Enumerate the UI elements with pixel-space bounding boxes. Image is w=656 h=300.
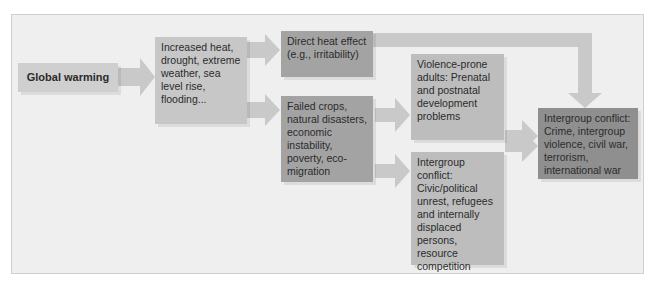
node-direct-heat: Direct heat effect (e.g., irritability)	[281, 31, 373, 77]
arrow-right-icon	[245, 94, 280, 126]
node-intergroup-final: Intergroup conflict: Crime, intergroup v…	[538, 108, 638, 179]
node-label: Violence-prone adults: Prenatal and post…	[417, 58, 490, 122]
node-label: Intergroup conflict: Civic/political unr…	[417, 156, 493, 272]
node-failed-crops: Failed crops, natural disasters, economi…	[281, 96, 373, 182]
arrow-right-icon	[375, 154, 410, 188]
node-label: Global warming	[27, 71, 110, 84]
arrow-right-icon	[375, 98, 410, 132]
node-label: Intergroup conflict: Crime, intergroup v…	[544, 112, 630, 176]
arrow-right-icon	[245, 34, 280, 66]
node-climate-effects: Increased heat, drought, extreme weather…	[155, 37, 247, 124]
node-label: Direct heat effect (e.g., irritability)	[287, 35, 366, 60]
node-label: Increased heat, drought, extreme weather…	[161, 41, 240, 105]
node-violence-prone: Violence-prone adults: Prenatal and post…	[411, 54, 504, 140]
node-intergroup-civic: Intergroup conflict: Civic/political unr…	[411, 152, 504, 265]
node-label: Failed crops, natural disasters, economi…	[287, 100, 367, 177]
node-global-warming: Global warming	[18, 63, 118, 92]
arrow-right-icon	[118, 58, 155, 96]
